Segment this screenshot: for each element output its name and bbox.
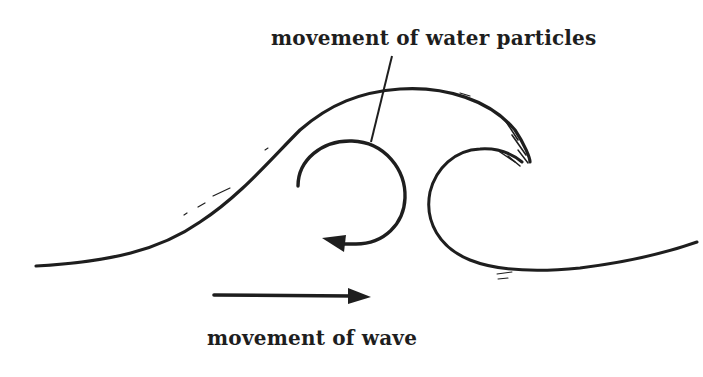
right-arrowhead-icon: [348, 288, 371, 304]
particle-orbit-arrow: [298, 141, 405, 252]
wave-profile: [36, 89, 697, 279]
particles-movement-label: movement of water particles: [271, 26, 597, 50]
orbit-arrowhead-icon: [322, 235, 346, 252]
wave-diagram: [0, 0, 703, 377]
leader-line: [371, 56, 392, 142]
diagram-canvas: movement of water particles movement of …: [0, 0, 703, 377]
wave-direction-arrow: [214, 288, 371, 304]
wave-movement-label: movement of wave: [207, 326, 417, 350]
